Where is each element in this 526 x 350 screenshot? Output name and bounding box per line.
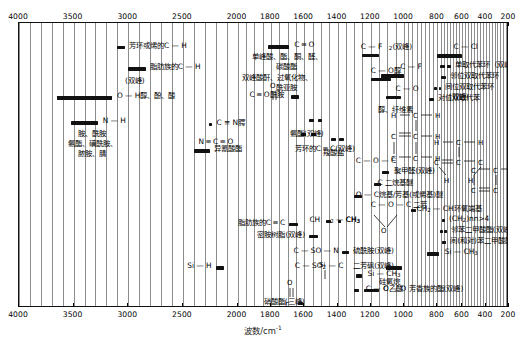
axis-tick-mark — [370, 303, 371, 307]
band-label: 氨酯(双峰) — [290, 130, 324, 138]
band-label: 胺、酰胺 — [78, 130, 106, 138]
gridline — [139, 23, 140, 306]
band-label: 芳环或烯的C — H — [129, 42, 187, 50]
band-label: 碳酸酯 — [276, 63, 297, 71]
svg-text:C: C — [413, 133, 418, 141]
svg-text:C: C — [471, 187, 476, 195]
svg-text:C: C — [391, 155, 396, 163]
absorption-band-bar — [291, 95, 299, 99]
axis-tick-label: 4000 — [8, 310, 28, 319]
band-label-part: n>4 — [474, 214, 490, 223]
gridline — [263, 23, 264, 306]
axis-tick-mark — [436, 303, 437, 307]
absorption-band-bar — [442, 219, 445, 222]
absorption-band-bar — [356, 274, 363, 278]
band-label: Si — CH3 — [445, 248, 478, 257]
svg-text:H: H — [478, 139, 483, 147]
gridline — [346, 23, 347, 306]
band-label: 密胺树脂(双峰) — [257, 231, 305, 239]
x-axis-label-text: 波数/cm — [244, 326, 276, 336]
absorption-band-bar — [342, 251, 349, 254]
svg-text:C: C — [413, 112, 418, 120]
gridline — [95, 23, 96, 306]
band-label: 间(和对)苯二甲酸酯 — [450, 237, 507, 245]
absorption-band-bar — [128, 67, 145, 71]
absorption-band-bar — [440, 65, 445, 68]
band-label: C — O — [395, 85, 418, 93]
axis-tick-label: 3500 — [63, 12, 83, 21]
axis-tick-label: 1000 — [393, 12, 413, 21]
axis-tick-label: 2000 — [227, 310, 247, 319]
band-label: C — Cl — [453, 43, 477, 51]
band-label: 异氰酸酯 — [214, 145, 242, 153]
absorption-band-bar — [268, 45, 290, 49]
axis-tick-label: 1200 — [360, 310, 380, 319]
svg-text:H: H — [444, 177, 449, 185]
band-label: (双峰) — [125, 77, 145, 85]
absorption-band-bar — [371, 78, 391, 81]
gridline — [30, 23, 31, 306]
axis-tick-label: 4000 — [8, 12, 28, 21]
axis-tick-label: 1800 — [260, 310, 280, 319]
band-label: C — O — C 二芳 — [371, 201, 428, 209]
svg-text:C: C — [413, 155, 418, 163]
axis-tick-label: 200 — [501, 12, 516, 21]
band-label: 脂肪族的C ═ C — [238, 219, 285, 227]
axis-tick-mark — [237, 303, 238, 307]
gridline — [216, 23, 217, 306]
gridline — [117, 23, 118, 306]
absorption-band-bar — [318, 119, 323, 122]
svg-text:C: C — [391, 133, 396, 141]
band-label: 脓胺、腈 — [78, 150, 106, 158]
gridline — [85, 23, 86, 306]
gridline — [271, 23, 272, 306]
svg-text:C: C — [285, 301, 290, 306]
absorption-band-bar — [339, 138, 344, 141]
band-label: 单峰酸、酯、酮、醛、 — [252, 53, 322, 61]
axis-tick-label: 800 — [429, 12, 444, 21]
gridline — [41, 23, 42, 306]
axis-tick-mark — [18, 303, 19, 307]
axis-tick-mark — [403, 303, 404, 307]
svg-text:H: H — [434, 139, 439, 147]
carbonyl-structure-top: O — [265, 77, 287, 107]
absorption-band-bar — [331, 138, 336, 141]
axis-tick-label: 1600 — [293, 310, 313, 319]
axis-tick-mark — [485, 303, 486, 307]
absorption-band-bar — [289, 223, 297, 226]
band-label: 硫酰胺(双峰) — [353, 247, 394, 255]
gridline — [74, 23, 75, 306]
axis-tick-label: 400 — [478, 310, 493, 319]
band-label: 对位双取代苯 — [438, 94, 480, 102]
axis-tick-mark — [303, 303, 304, 307]
absorption-band-bar — [427, 252, 438, 256]
gridline — [246, 23, 247, 306]
absorption-band-bar — [437, 54, 462, 58]
absorption-band-bar — [386, 266, 403, 270]
band-label: 2(双峰) — [389, 43, 412, 52]
gridline — [254, 23, 255, 306]
gridline — [19, 23, 20, 306]
band-label: (CH2)nn>4 — [449, 215, 489, 224]
epoxide-structure: O — [371, 213, 401, 237]
axis-tick-label: 3500 — [63, 310, 83, 319]
band-label-part: (CH — [449, 214, 463, 223]
absorption-band-bar — [71, 121, 97, 125]
axis-tick-mark — [270, 303, 271, 307]
axis-tick-mark — [127, 303, 128, 307]
gridline — [227, 23, 228, 306]
gridline — [238, 23, 239, 306]
svg-text:C: C — [456, 139, 461, 147]
band-label: N — H — [103, 117, 126, 125]
axis-tick-label: 600 — [454, 310, 469, 319]
band-label: Si — H — [187, 262, 211, 270]
band-label: C ≡ N腭 — [216, 119, 245, 127]
band-label: 邻苯二甲酸酯(双峰) — [451, 226, 507, 234]
axis-tick-mark — [337, 303, 338, 307]
band-label-part: 3 — [357, 218, 361, 224]
absorption-band-bar — [442, 241, 446, 244]
svg-text:C: C — [493, 187, 498, 195]
absorption-band-bar — [447, 65, 451, 68]
band-label: CH3 — [346, 216, 360, 225]
absorption-band-bar — [354, 195, 362, 198]
